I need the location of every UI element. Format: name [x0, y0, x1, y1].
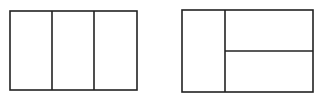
outer-rectangle — [10, 11, 137, 90]
rectangle-three-columns — [10, 11, 137, 90]
diagram-canvas — [0, 0, 321, 98]
rectangle-column-and-two-rows — [182, 10, 313, 92]
